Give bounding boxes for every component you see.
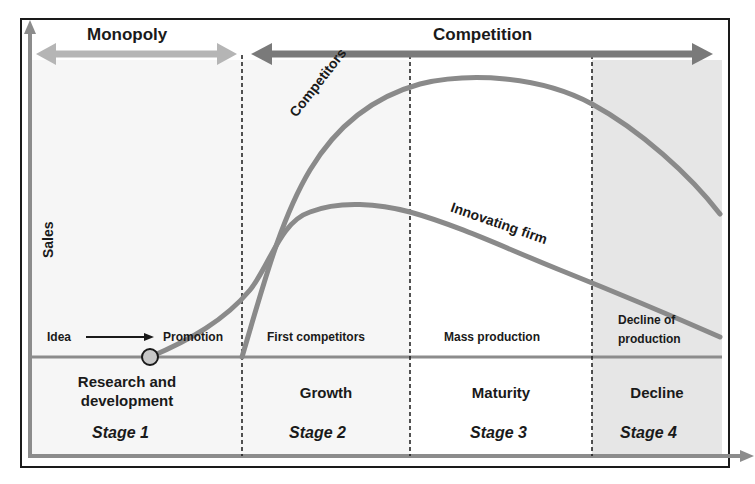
stage3-descriptor: Mass production (444, 330, 540, 344)
x-axis-arrowhead-icon (740, 450, 754, 462)
stage4-name: Decline (607, 383, 707, 402)
stage1-name-line1: Research and (62, 372, 192, 391)
monopoly-label: Monopoly (87, 25, 167, 45)
stage3-name: Maturity (451, 383, 551, 402)
stage4-descriptor-line1: Decline of (618, 313, 675, 327)
stage2-number: Stage 2 (289, 424, 346, 442)
y-axis-label: Sales (40, 221, 56, 258)
stage4-descriptor-line2: production (618, 332, 681, 346)
stage2-descriptor: First competitors (267, 330, 365, 344)
idea-label: Idea (47, 330, 71, 344)
y-axis-arrowhead-icon (24, 20, 36, 34)
launch-point-marker (142, 349, 158, 365)
life-cycle-diagram (0, 0, 755, 484)
stage1-name-line2: development (62, 391, 192, 410)
stage4-number: Stage 4 (620, 424, 677, 442)
competition-label: Competition (433, 25, 532, 45)
promotion-label: Promotion (163, 330, 223, 344)
stage2-name: Growth (276, 383, 376, 402)
stage1-name: Research and development (62, 372, 192, 410)
stage3-number: Stage 3 (470, 424, 527, 442)
stage1-number: Stage 1 (92, 424, 149, 442)
